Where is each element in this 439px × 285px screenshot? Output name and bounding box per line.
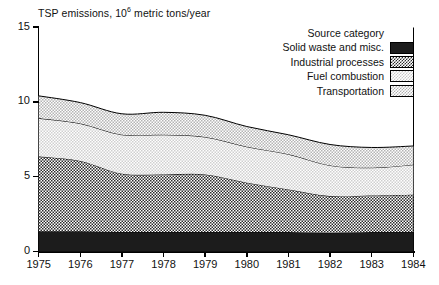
legend-swatch-solid-waste-and-misc: [390, 42, 414, 54]
legend-label: Industrial processes: [291, 57, 384, 68]
legend-swatch-fuel-combustion: [390, 70, 414, 82]
legend: Source category Solid waste and misc. In…: [246, 26, 414, 102]
x-tick-mark: [204, 252, 205, 257]
y-tick-label: 10: [4, 94, 30, 106]
area-bands: [39, 96, 414, 252]
x-tick-label: 1983: [352, 258, 392, 270]
x-tick-label: 1976: [60, 258, 100, 270]
x-tick-mark: [288, 252, 289, 257]
x-tick-mark: [163, 252, 164, 257]
x-tick-label: 1977: [102, 258, 142, 270]
x-tick-mark: [80, 252, 81, 257]
x-tick-label: 1982: [310, 258, 350, 270]
x-tick-mark: [246, 252, 247, 257]
y-tick-mark: [33, 176, 39, 177]
legend-swatch-transportation: [390, 85, 414, 97]
legend-item-fuel-combustion[interactable]: Fuel combustion: [246, 69, 414, 83]
x-tick-label: 1981: [268, 258, 308, 270]
chart-container: TSP emissions, 106 metric tons/year: [0, 0, 439, 285]
x-tick-label: 1978: [144, 258, 184, 270]
legend-item-solid-waste-and-misc[interactable]: Solid waste and misc.: [246, 40, 414, 54]
y-tick-label: 15: [4, 20, 30, 32]
x-tick-mark: [121, 252, 122, 257]
legend-label: Transportation: [317, 86, 384, 97]
legend-label: Fuel combustion: [307, 71, 384, 82]
x-tick-mark: [329, 252, 330, 257]
y-tick-mark: [33, 101, 39, 102]
x-tick-mark: [371, 252, 372, 257]
legend-title-spacer: [390, 27, 414, 39]
y-tick-label: 0: [4, 244, 30, 256]
y-tick-label: 5: [4, 169, 30, 181]
y-tick-mark: [33, 26, 39, 27]
legend-title: Source category: [308, 28, 384, 39]
legend-title-row: Source category: [246, 26, 414, 40]
legend-item-industrial-processes[interactable]: Industrial processes: [246, 55, 414, 69]
area-band-solid-waste-and-misc: [39, 231, 414, 251]
x-tick-mark: [413, 252, 414, 257]
x-tick-mark: [38, 252, 39, 257]
legend-item-transportation[interactable]: Transportation: [246, 84, 414, 98]
legend-label: Solid waste and misc.: [282, 42, 384, 53]
x-tick-label: 1984: [393, 258, 433, 270]
x-tick-label: 1975: [19, 258, 59, 270]
legend-swatch-industrial-processes: [390, 56, 414, 68]
x-tick-label: 1979: [185, 258, 225, 270]
x-tick-label: 1980: [227, 258, 267, 270]
